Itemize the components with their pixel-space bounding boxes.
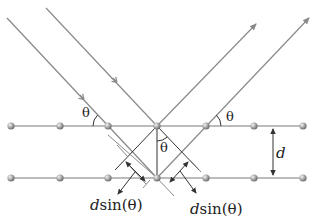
incident-ray-upper [46, 8, 157, 126]
theta-center-label: θ [160, 141, 168, 154]
path-left-fn: sin(θ) [100, 196, 143, 214]
reflected-rays [157, 18, 309, 178]
angle-arc-reflected [216, 115, 221, 126]
path-difference-left-label: dsin(θ) [90, 198, 143, 213]
reflected-ray-lower [157, 18, 309, 178]
theta-reflected-label: θ [226, 110, 234, 123]
path-left-var: d [90, 196, 100, 214]
perp-left [115, 126, 157, 170]
reflected-ray-upper [157, 24, 256, 126]
diagram-graphics [0, 0, 318, 222]
path-right-var: d [190, 200, 200, 218]
incident-arrow-upper [112, 77, 118, 83]
theta-incident-label: θ [82, 106, 90, 119]
angle-arc-incident [93, 115, 98, 126]
bragg-diagram: θ θ θ d dsin(θ) dsin(θ) [0, 0, 318, 222]
path-difference-left [108, 135, 157, 194]
path-right-fn: sin(θ) [200, 200, 243, 218]
path-difference-right-label: dsin(θ) [190, 202, 243, 217]
incident-rays [7, 8, 157, 178]
spacing-label: d [276, 146, 286, 161]
